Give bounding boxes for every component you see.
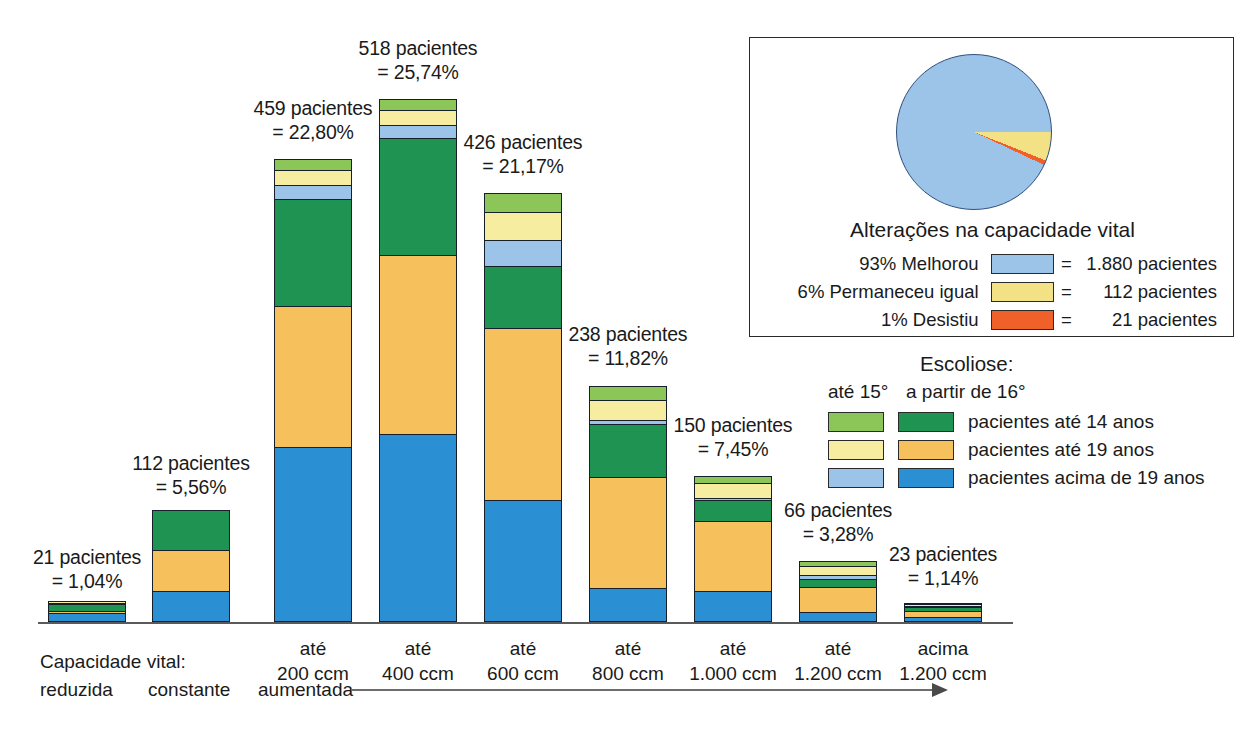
x-tick-label: acima 1.200 ccm: [873, 636, 1013, 686]
bar-segment: [694, 591, 772, 622]
increase-direction-arrow-line: [352, 689, 940, 691]
bar-segment: [48, 613, 126, 622]
bar-column: [274, 159, 352, 622]
axis-category-constante: constante: [148, 677, 230, 702]
scoliosis-legend-row: pacientes até 19 anos: [828, 436, 1205, 464]
scoliosis-swatch-light: [828, 468, 884, 488]
pie-legend-swatch: [991, 254, 1054, 274]
bar-segment: [589, 477, 667, 590]
scoliosis-swatch-dark: [898, 412, 954, 432]
x-axis-baseline: [38, 622, 1013, 624]
scoliosis-legend-text: pacientes acima de 19 anos: [954, 467, 1205, 489]
bar-segment: [484, 212, 562, 242]
bar-value-label: 23 pacientes = 1,14%: [838, 542, 1048, 590]
scoliosis-legend-rows: pacientes até 14 anospacientes até 19 an…: [828, 408, 1205, 492]
pie-legend-value: 21 pacientes: [1079, 309, 1221, 331]
pie-legend-swatch: [991, 282, 1054, 302]
bar-segment: [379, 434, 457, 622]
axis-title-vital-capacity: Capacidade vital:: [40, 649, 186, 674]
bar-segment: [904, 617, 982, 622]
bar-segment: [484, 240, 562, 267]
scoliosis-legend-title: Escoliose:: [920, 352, 1013, 376]
bar-column: [904, 603, 982, 622]
bar-segment: [274, 170, 352, 186]
bar-segment: [694, 483, 772, 499]
bar-value-label: 21 pacientes = 1,04%: [0, 545, 192, 593]
pie-legend-equals: =: [1054, 281, 1080, 303]
bar-segment: [274, 199, 352, 307]
pie-legend-row: 6% Permaneceu igual=112 pacientes: [766, 278, 1221, 306]
scoliosis-swatch-dark: [898, 468, 954, 488]
bar-segment: [589, 386, 667, 402]
pie-chart-panel: Alterações na capacidade vital 93% Melho…: [749, 37, 1234, 337]
axis-category-reduzida: reduzida: [40, 677, 113, 702]
pie-legend-equals: =: [1054, 253, 1080, 275]
increase-direction-arrow-head: [932, 683, 948, 697]
scoliosis-swatch-dark: [898, 440, 954, 460]
scoliosis-swatch-light: [828, 440, 884, 460]
scoliosis-legend-row: pacientes acima de 19 anos: [828, 464, 1205, 492]
pie-legend-list: 93% Melhorou=1.880 pacientes6% Permanece…: [766, 250, 1221, 334]
bar-value-label: 66 pacientes = 3,28%: [733, 498, 943, 546]
bar-segment: [484, 193, 562, 213]
bar-segment: [274, 306, 352, 448]
pie-legend-value: 1.880 pacientes: [1079, 253, 1221, 275]
scoliosis-legend-row: pacientes até 14 anos: [828, 408, 1205, 436]
bar-value-label: 238 pacientes = 11,82%: [523, 322, 733, 370]
scoliosis-legend-text: pacientes até 19 anos: [954, 439, 1154, 461]
pie-chart-title: Alterações na capacidade vital: [750, 218, 1235, 242]
chart-canvas: 21 pacientes = 1,04%112 pacientes = 5,56…: [0, 0, 1244, 736]
bar-value-label: 518 pacientes = 25,74%: [313, 36, 523, 84]
bar-segment: [799, 587, 877, 614]
bar-segment: [484, 266, 562, 329]
bar-segment: [484, 500, 562, 622]
bar-segment: [799, 612, 877, 622]
bar-value-label: 150 pacientes = 7,45%: [628, 413, 838, 461]
pie-legend-swatch: [991, 310, 1054, 330]
bar-segment: [589, 588, 667, 622]
bar-column: [48, 601, 126, 622]
bar-segment: [152, 591, 230, 622]
pie-legend-label: 1% Desistiu: [766, 309, 991, 331]
axis-category-aumentada: aumentada: [258, 677, 353, 702]
pie-legend-value: 112 pacientes: [1079, 281, 1221, 303]
bar-column: [484, 193, 562, 622]
scoliosis-legend-col1-head: até 15°: [828, 381, 906, 403]
pie-legend-equals: =: [1054, 309, 1080, 331]
scoliosis-swatch-light: [828, 412, 884, 432]
bar-value-label: 426 pacientes = 21,17%: [418, 130, 628, 178]
bar-value-label: 459 pacientes = 22,80%: [208, 96, 418, 144]
bar-segment: [379, 255, 457, 435]
pie-legend-label: 6% Permaneceu igual: [766, 281, 991, 303]
scoliosis-legend-text: pacientes até 14 anos: [954, 411, 1154, 433]
bar-value-label: 112 pacientes = 5,56%: [86, 451, 296, 499]
pie-legend-label: 93% Melhorou: [766, 253, 991, 275]
pie-chart: [896, 54, 1052, 210]
pie-legend-row: 93% Melhorou=1.880 pacientes: [766, 250, 1221, 278]
scoliosis-legend-col2-head: a partir de 16°: [906, 381, 1026, 403]
pie-legend-row: 1% Desistiu=21 pacientes: [766, 306, 1221, 334]
scoliosis-legend-headers: até 15° a partir de 16°: [828, 381, 1026, 403]
